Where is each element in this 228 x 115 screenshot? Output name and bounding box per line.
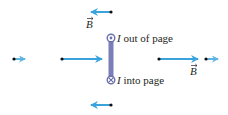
field-point-dot xyxy=(109,10,112,13)
field-point-dot xyxy=(60,57,63,60)
field-point-dot xyxy=(12,57,15,60)
field-vector-top xyxy=(91,10,113,13)
current-loop-wire xyxy=(109,38,114,80)
field-point-dot xyxy=(204,57,207,60)
current-into-page-icon xyxy=(107,76,115,84)
field-vector-far-left xyxy=(12,57,25,60)
current-out-label: I out of page xyxy=(116,32,173,44)
field-point-dot xyxy=(109,103,112,106)
field-vector-bottom xyxy=(91,103,113,106)
field-vector-near-right xyxy=(157,57,198,60)
field-vector-far-right xyxy=(204,57,218,60)
field-label-right: B xyxy=(190,64,197,77)
field-point-dot xyxy=(157,57,160,60)
field-label-top: B xyxy=(86,17,93,30)
current-in-label: I into page xyxy=(116,74,164,86)
current-out-of-page-icon xyxy=(107,34,115,42)
field-vector-near-left xyxy=(60,57,102,60)
magnetic-field-diagram: I out of page I into page B B xyxy=(0,0,228,115)
